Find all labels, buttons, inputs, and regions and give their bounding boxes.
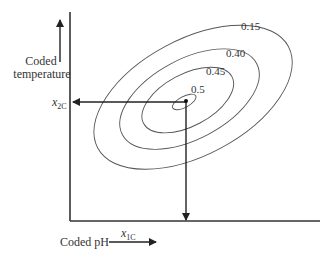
contour-0.45: [131, 54, 244, 147]
contour-label-0.15: 0.15: [241, 20, 261, 32]
contour-label-0.40: 0.40: [226, 47, 246, 59]
contour-0.40: [104, 28, 276, 170]
y-optimum-label: x2C: [51, 95, 67, 111]
contour-label-0.5: 0.5: [191, 83, 205, 95]
optimum-point: [184, 99, 188, 103]
y-axis-label-line2: temperature: [13, 67, 70, 81]
y-optimum-subscript: 2C: [57, 102, 66, 111]
x-optimum-label: x1C: [120, 226, 136, 242]
contour-label-0.45: 0.45: [206, 65, 226, 77]
contour-0.15: [70, 0, 315, 199]
response-surface-contour-diagram: 0.15 0.40 0.45 0.5 Coded temperature x2C…: [0, 0, 331, 259]
y-axis-label-line1: Coded: [25, 54, 56, 68]
x-optimum-subscript: 1C: [126, 233, 135, 242]
x-axis-label: Coded pH: [60, 235, 109, 249]
